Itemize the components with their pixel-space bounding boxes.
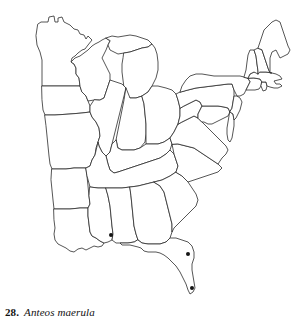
state-delmarva-peninsula xyxy=(227,112,234,142)
state-outlines xyxy=(36,16,290,294)
state-florida xyxy=(120,238,195,294)
state-arkansas xyxy=(51,168,90,209)
us-eastern-states-map xyxy=(0,0,300,300)
record-dot-central-florida xyxy=(186,252,190,256)
state-maryland xyxy=(198,106,230,124)
record-dot-south-florida xyxy=(190,286,194,290)
record-dot-coastal-mississippi xyxy=(109,233,113,237)
map-canvas xyxy=(0,0,300,300)
caption-figure-number: 28. xyxy=(5,306,19,318)
distribution-map-figure: 28. Anteos maerula xyxy=(0,0,300,324)
caption-species-name: Anteos maerula xyxy=(24,306,95,318)
figure-caption: 28. Anteos maerula xyxy=(0,300,300,324)
